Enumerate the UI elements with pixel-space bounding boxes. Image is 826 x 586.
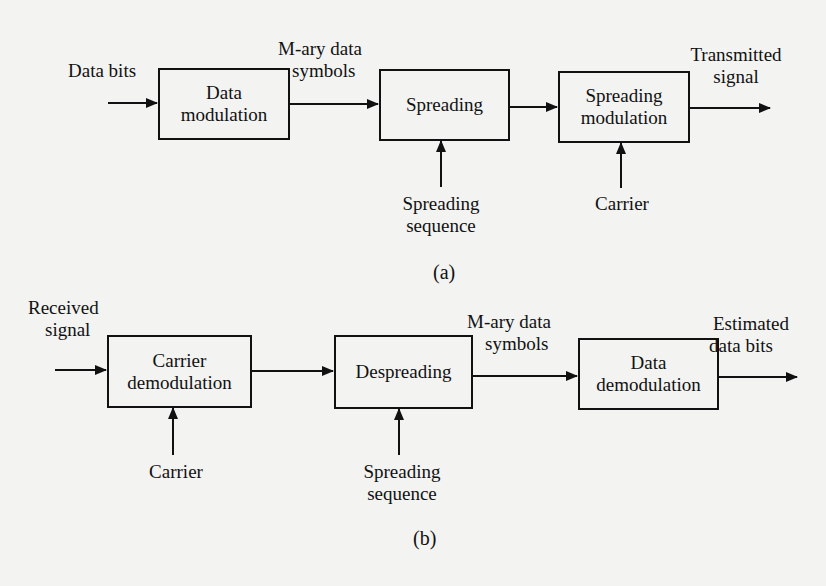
edge-label-line2: symbols	[278, 60, 362, 82]
input-label-line1: Received	[28, 297, 99, 319]
block-label-line2: demodulation	[127, 372, 231, 394]
input-label-received-signal: Received signal	[28, 297, 99, 341]
input-label-data-bits: Data bits	[68, 60, 136, 82]
side-input-line1: Spreading	[391, 193, 491, 215]
output-label-line1: Estimated	[709, 313, 789, 335]
edge-label-line1: M-ary data	[467, 311, 551, 333]
edge-label-line1: M-ary data	[278, 38, 362, 60]
block-data-demodulation: Data demodulation	[578, 338, 719, 410]
block-label-line1: Carrier	[127, 350, 231, 372]
edge-label-mary-symbols-b: M-ary data symbols	[467, 311, 551, 355]
side-input-line1: Spreading	[352, 461, 452, 483]
block-label-line1: Spreading	[581, 85, 668, 107]
input-label-line2: signal	[28, 319, 99, 341]
block-carrier-demodulation: Carrier demodulation	[107, 335, 252, 408]
block-label-line2: modulation	[581, 107, 668, 129]
edge-label-mary-symbols-a: M-ary data symbols	[278, 38, 362, 82]
block-spreading: Spreading	[379, 69, 510, 141]
output-label-line2: signal	[680, 66, 792, 88]
side-input-carrier-b: Carrier	[140, 461, 212, 483]
output-label-line1: Transmitted	[680, 44, 792, 66]
caption-a: (a)	[433, 261, 455, 284]
output-label-estimated-data-bits: Estimated data bits	[709, 313, 789, 357]
side-input-line2: sequence	[352, 483, 452, 505]
block-despreading: Despreading	[334, 335, 473, 409]
block-label-line2: modulation	[181, 104, 268, 126]
block-diagram: Data bits Data modulation M-ary data sym…	[0, 0, 826, 586]
output-label-transmitted-signal: Transmitted signal	[680, 44, 792, 88]
side-input-spreading-sequence-a: Spreading sequence	[391, 193, 491, 237]
side-input-line2: sequence	[391, 215, 491, 237]
block-label: Spreading	[406, 94, 483, 116]
block-label-line2: demodulation	[596, 374, 700, 396]
block-data-modulation: Data modulation	[158, 68, 290, 140]
output-label-line2: data bits	[709, 335, 789, 357]
side-input-spreading-sequence-b: Spreading sequence	[352, 461, 452, 505]
block-label-line1: Data	[596, 352, 700, 374]
edge-label-line2: symbols	[467, 333, 551, 355]
block-spreading-modulation: Spreading modulation	[558, 71, 690, 143]
side-input-carrier-a: Carrier	[586, 193, 658, 215]
block-label: Despreading	[355, 361, 451, 383]
block-label-line1: Data	[181, 82, 268, 104]
caption-b: (b)	[413, 527, 436, 550]
